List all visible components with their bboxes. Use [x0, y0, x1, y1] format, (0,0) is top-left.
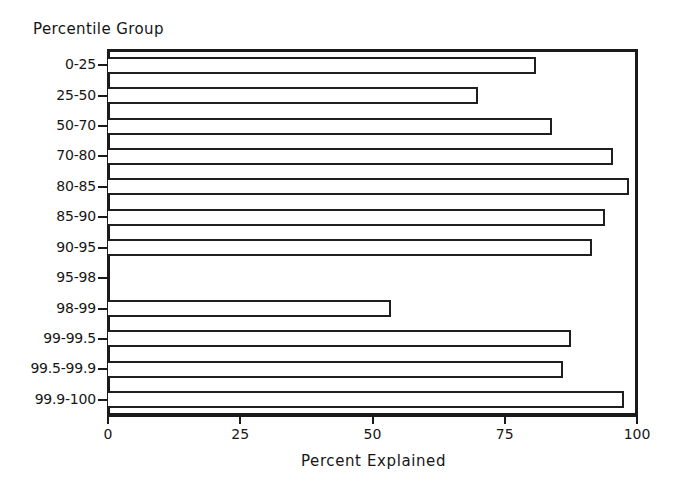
x-tick-label: 50 [364, 426, 382, 442]
bar-row [108, 324, 637, 354]
y-tick-mark [98, 155, 108, 157]
bar-chart: Percentile Group 0-2525-5050-7070-8080-8… [0, 0, 675, 494]
bar [108, 300, 391, 317]
x-tick-label: 0 [104, 426, 113, 442]
bar-row [108, 202, 637, 232]
bar-row [108, 293, 637, 323]
y-tick-label-wrap: 70-80 [0, 147, 96, 163]
y-tick-label: 99-99.5 [0, 330, 96, 346]
bar-row [108, 80, 637, 110]
y-tick-label-wrap: 85-90 [0, 208, 96, 224]
bar [108, 87, 478, 104]
bar-row [108, 141, 637, 171]
y-tick-label: 0-25 [0, 56, 96, 72]
y-tick-mark [98, 125, 108, 127]
x-axis-title: Percent Explained [301, 452, 446, 470]
bar [108, 391, 624, 408]
bar [108, 239, 592, 256]
y-tick-label-wrap: 98-99 [0, 300, 96, 316]
bar [108, 361, 563, 378]
y-tick-mark [98, 338, 108, 340]
y-axis-title: Percentile Group [33, 20, 164, 38]
y-tick-label-wrap: 0-25 [0, 56, 96, 72]
y-tick-label: 90-95 [0, 239, 96, 255]
x-tick-label: 75 [496, 426, 514, 442]
bar-row [108, 50, 637, 80]
y-tick-label: 80-85 [0, 178, 96, 194]
y-tick-label-wrap: 99-99.5 [0, 330, 96, 346]
y-tick-label-wrap: 90-95 [0, 239, 96, 255]
bar [108, 118, 552, 135]
x-tick-label: 25 [231, 426, 249, 442]
bar [108, 178, 629, 195]
y-tick-label-wrap: 95-98 [0, 269, 96, 285]
y-tick-label-wrap: 25-50 [0, 87, 96, 103]
y-tick-mark [98, 247, 108, 249]
x-tick-mark [239, 415, 241, 424]
y-tick-label: 98-99 [0, 300, 96, 316]
y-tick-label: 99.5-99.9 [0, 360, 96, 376]
bar-row [108, 233, 637, 263]
y-tick-label-wrap: 80-85 [0, 178, 96, 194]
y-tick-label: 50-70 [0, 117, 96, 133]
bar-row [108, 111, 637, 141]
y-tick-mark [98, 95, 108, 97]
y-tick-mark [98, 399, 108, 401]
y-tick-mark [98, 186, 108, 188]
x-tick-mark [372, 415, 374, 424]
bar-row [108, 385, 637, 415]
y-tick-label-wrap: 50-70 [0, 117, 96, 133]
bar-row [108, 354, 637, 384]
y-tick-label-wrap: 99.9-100 [0, 391, 96, 407]
y-tick-mark [98, 216, 108, 218]
bar-row [108, 263, 637, 293]
bar [108, 330, 571, 347]
y-tick-label: 85-90 [0, 208, 96, 224]
y-tick-label-wrap: 99.5-99.9 [0, 360, 96, 376]
bar [108, 57, 536, 74]
bar [108, 209, 605, 226]
y-tick-mark [98, 308, 108, 310]
x-axis-title-wrap: Percent Explained [0, 452, 675, 470]
bars-layer [108, 50, 637, 415]
x-tick-label: 100 [624, 426, 651, 442]
x-tick-mark [636, 415, 638, 424]
y-tick-label: 95-98 [0, 269, 96, 285]
y-tick-mark [98, 277, 108, 279]
y-tick-mark [98, 64, 108, 66]
y-tick-label: 25-50 [0, 87, 96, 103]
y-tick-label: 70-80 [0, 147, 96, 163]
x-tick-mark [504, 415, 506, 424]
bar-row [108, 172, 637, 202]
y-tick-label: 99.9-100 [0, 391, 96, 407]
y-tick-mark [98, 368, 108, 370]
bar [108, 148, 613, 165]
x-tick-mark [107, 415, 109, 424]
